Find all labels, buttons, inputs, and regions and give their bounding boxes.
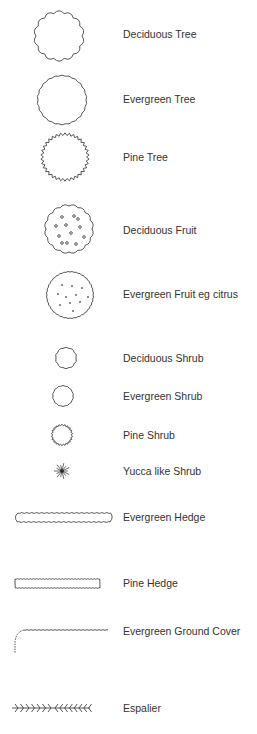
plant-symbol-legend: Deciduous Tree Evergreen Tree Pine Tree … [0, 0, 257, 734]
pine-tree-icon [41, 133, 89, 181]
evergreen-hedge-icon [15, 513, 112, 523]
evergreen-fruit-icon [46, 271, 93, 318]
label-pine-shrub: Pine Shrub [123, 429, 175, 441]
espalier-icon [12, 704, 92, 712]
pine-shrub-icon [51, 424, 72, 446]
pine-hedge-icon [15, 579, 100, 589]
deciduous-fruit-icon [45, 205, 93, 253]
evergreen-shrub-icon [53, 386, 74, 407]
label-espalier: Espalier [123, 702, 161, 714]
label-evergreen-shrub: Evergreen Shrub [123, 390, 202, 402]
deciduous-tree-icon [34, 11, 83, 61]
label-evergreen-tree: Evergreen Tree [123, 93, 195, 105]
evergreen-tree-icon [37, 75, 86, 125]
ground-cover-icon [15, 630, 108, 653]
label-pine-hedge: Pine Hedge [123, 577, 178, 589]
label-evergreen-hedge: Evergreen Hedge [123, 511, 205, 523]
deciduous-shrub-icon [56, 347, 77, 369]
yucca-shrub-icon [54, 463, 69, 479]
label-ground-cover: Evergreen Ground Cover [123, 625, 240, 637]
legend-symbols [0, 0, 257, 734]
label-pine-tree: Pine Tree [123, 151, 168, 163]
label-deciduous-tree: Deciduous Tree [123, 28, 197, 40]
label-deciduous-shrub: Deciduous Shrub [123, 352, 204, 364]
label-yucca-shrub: Yucca like Shrub [123, 465, 201, 477]
label-deciduous-fruit: Deciduous Fruit [123, 224, 197, 236]
label-evergreen-fruit: Evergreen Fruit eg citrus [123, 288, 238, 300]
